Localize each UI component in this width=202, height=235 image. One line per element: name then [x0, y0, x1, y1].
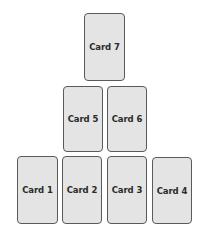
card-label: Card 6 — [112, 114, 143, 124]
card-5: Card 5 — [63, 86, 103, 152]
card-label: Card 3 — [112, 185, 143, 195]
card-7: Card 7 — [84, 13, 125, 81]
card-label: Card 2 — [67, 185, 98, 195]
card-label: Card 7 — [89, 42, 120, 52]
card-label: Card 4 — [157, 186, 188, 196]
card-1: Card 1 — [17, 156, 58, 224]
card-6: Card 6 — [107, 86, 147, 152]
card-label: Card 1 — [22, 185, 53, 195]
card-3: Card 3 — [107, 156, 147, 224]
card-label: Card 5 — [68, 114, 99, 124]
card-4: Card 4 — [152, 157, 192, 224]
card-2: Card 2 — [62, 156, 102, 224]
